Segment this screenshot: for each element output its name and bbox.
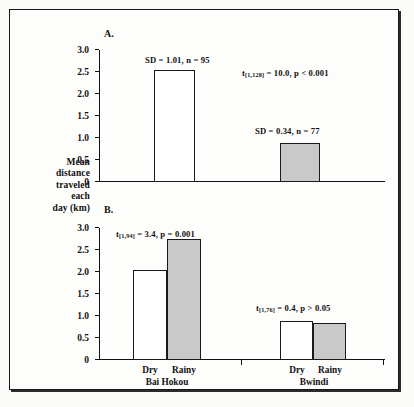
panel-a-bar2-annotation: SD = 0.34, n = 77 [255,126,320,136]
panel-b-tag: B. [104,204,113,215]
panel-b-tick-15: 1.5 [95,293,99,294]
panel-b-ticklabel-0: 0 [84,355,89,365]
panel-a-ticklabel-0: 0 [84,177,89,187]
panel-b-catlabel-baihokou-dry: Dry [142,365,158,375]
panel-b-tick-0: 0 [95,359,99,360]
panel-b-bar-bwindi-dry [280,321,313,360]
panel-a-ticklabel-3: 3.0 [77,45,89,55]
panel-b-tick-25: 2.5 [95,249,99,250]
panel-a-ticklabel-1: 1.0 [77,133,89,143]
panel-b-tick-05: 0.5 [95,337,99,338]
panel-a-tick-05: 0.5 [95,159,99,160]
panel-b-catlabel-bwindi-dry: Dry [289,365,305,375]
panel-b: B. 3.0 2.5 2.0 1.5 1.0 [0,200,414,380]
panel-b-x-end-tick [383,360,384,365]
panel-b-stat-left-value: = 3.4, p = 0.001 [135,229,195,239]
panel-b-catlabel-baihokou-rainy: Rainy [172,365,196,375]
figure-page: Mean distance traveled each day (km) A. … [0,0,414,407]
panel-b-grouplabel-baihokou: Bai Hokou [146,377,189,387]
panel-b-bar-baihokou-rainy [167,239,201,360]
panel-b-stat-left-annotation: t[1,94] = 3.4, p = 0.001 [116,229,195,239]
panel-b-stat-right-value: = 0.4, p > 0.05 [275,303,331,313]
panel-a-ticklabel-05: 0.5 [77,155,89,165]
panel-a-ticklabel-25: 2.5 [77,67,89,77]
panel-b-bar-baihokou-dry [133,270,167,360]
panel-b-stat-right-annotation: t[1,76] = 0.4, p > 0.05 [256,303,331,313]
panel-a-tick-0: 0 [95,181,99,182]
panel-a-stat-value: = 10.0, p < 0.001 [264,68,329,78]
panel-b-plot-area: 3.0 2.5 2.0 1.5 1.0 0.5 0 [99,228,385,360]
panel-b-tick-1: 1.0 [95,315,99,316]
panel-a-tick-1: 1.0 [95,137,99,138]
panel-a-stat-annotation: t[1,128] = 10.0, p < 0.001 [242,68,329,78]
panel-a-tick-15: 1.5 [95,115,99,116]
panel-b-ticklabel-3: 3.0 [77,223,89,233]
panel-b-grouplabel-bwindi: Bwindi [300,377,328,387]
panel-b-bar-bwindi-rainy [313,323,346,360]
panel-b-ticklabel-15: 1.5 [77,289,89,299]
panel-b-tick-2: 2.0 [95,271,99,272]
panel-a-ticklabel-2: 2.0 [77,89,89,99]
panel-b-tick-3: 3.0 [95,227,99,228]
panel-b-catlabel-bwindi-rainy: Rainy [318,365,342,375]
panel-a-bar-bwindi [280,143,320,182]
panel-a-tag: A. [104,28,114,39]
panel-a: A. 3.0 2.5 2.0 1.5 1.0 [0,22,414,197]
panel-b-x-center-tick [241,360,242,365]
panel-b-ticklabel-2: 2.0 [77,267,89,277]
panel-a-stat-subscript: [1,128] [245,71,264,78]
panel-b-stat-right-subscript: [1,76] [259,306,275,313]
figure-canvas: Mean distance traveled each day (km) A. … [0,0,414,407]
panel-a-tick-3: 3.0 [95,49,99,50]
panel-a-tick-25: 2.5 [95,71,99,72]
panel-a-bar1-annotation: SD = 1.01, n = 95 [145,55,210,65]
panel-b-stat-left-subscript: [1,94] [119,232,135,239]
panel-a-y-axis [99,50,100,182]
panel-a-bar-bai-hokou [154,70,195,182]
panel-b-ticklabel-05: 0.5 [77,333,89,343]
panel-a-x-axis [99,181,385,182]
panel-a-tick-2: 2.0 [95,93,99,94]
panel-a-ticklabel-15: 1.5 [77,111,89,121]
panel-b-y-axis [99,228,100,360]
panel-b-ticklabel-1: 1.0 [77,311,89,321]
panel-b-ticklabel-25: 2.5 [77,245,89,255]
